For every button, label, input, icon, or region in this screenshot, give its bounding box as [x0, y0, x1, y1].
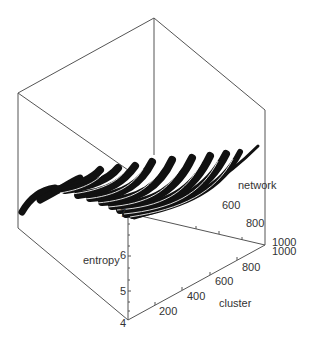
x-tick-400: 400: [187, 291, 205, 302]
y-tick-1000: 1000: [272, 237, 296, 248]
surface-plot-3d: [0, 0, 309, 340]
cluster-axis-label: cluster: [219, 298, 251, 309]
x-tick-200: 200: [159, 306, 177, 317]
network-axis-label: network: [238, 180, 277, 191]
y-tick-800: 800: [246, 218, 264, 229]
y-tick-600: 600: [222, 200, 240, 211]
z-tick-7: 7: [120, 208, 126, 219]
z-tick-4: 4: [120, 318, 126, 329]
entropy-axis-label: entropy: [83, 255, 120, 266]
x-tick-800: 800: [242, 262, 260, 273]
z-tick-6: 6: [120, 250, 126, 261]
z-tick-5: 5: [120, 286, 126, 297]
x-tick-600: 600: [215, 276, 233, 287]
